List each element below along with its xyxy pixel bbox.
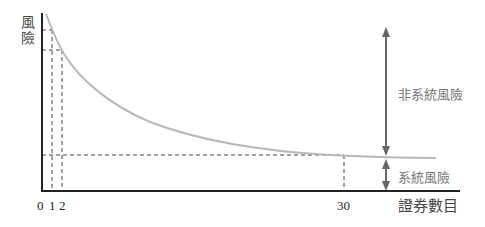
systematic-risk-arrow: [382, 159, 390, 191]
unsystematic-risk-label: 非系統風險: [398, 87, 463, 102]
x-tick-2: 2: [59, 198, 66, 213]
x-tick-30: 30: [337, 198, 350, 213]
x-tick-1: 1: [49, 198, 56, 213]
systematic-risk-label: 系統風險: [398, 170, 450, 185]
x-axis-label: 證券數目: [398, 197, 458, 215]
risk-diversification-chart: 風 險 0 1 2 30 證券數目 非系統風險 系統風險: [0, 0, 485, 227]
y-axis-label-char-1: 風: [21, 14, 35, 30]
x-tick-0: 0: [37, 198, 44, 213]
dashed-reference-lines: [42, 30, 344, 191]
y-axis-label-char-2: 險: [21, 30, 35, 46]
total-risk-curve: [46, 14, 436, 158]
unsystematic-risk-arrow: [382, 27, 390, 156]
